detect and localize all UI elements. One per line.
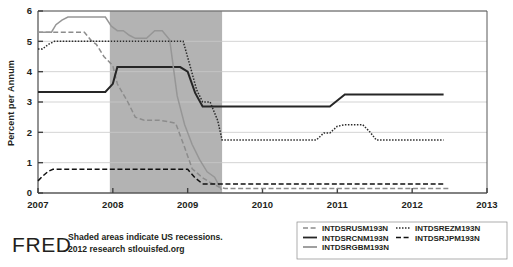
legend-label-INTDSRGBM193N: INTDSRGBM193N [322,243,389,252]
y-tick-label: 6 [27,5,32,16]
x-tick-label: 2013 [476,199,498,210]
recession-note-line1: Shaded areas indicate US recessions. [68,232,223,242]
x-tick-label: 2011 [327,199,349,210]
chart-legend: INTDSRUSM193NINTDSRCNM193NINTDSRGBM193NI… [297,222,507,259]
y-tick-label: 2 [27,127,32,138]
fred-chart-figure: 2007200820092010201120122013 0123456 Per… [0,0,513,267]
y-tick-label: 3 [27,96,32,107]
y-tick-label: 0 [27,187,32,198]
y-tick-label: 4 [27,66,33,77]
y-tick-label: 5 [27,36,33,47]
legend-label-INTDSRJPM193N: INTDSRJPM193N [415,234,480,243]
fred-logo: FRED [12,233,72,256]
legend-label-INTDSRCNM193N: INTDSRCNM193N [322,234,389,243]
x-tick-label: 2012 [401,199,423,210]
source-note-line2: 2012 research stlouisfed.org [68,244,185,254]
y-axis-title: Percent per Annum [6,60,16,146]
chart-canvas: 2007200820092010201120122013 0123456 Per… [0,0,513,267]
legend-label-INTDSREZM193N: INTDSREZM193N [415,224,480,233]
y-tick-label: 1 [27,157,33,168]
x-tick-label: 2009 [177,199,199,210]
x-tick-label: 2008 [102,199,124,210]
x-tick-label: 2010 [252,199,274,210]
x-tick-label: 2007 [27,199,49,210]
legend-label-INTDSRUSM193N: INTDSRUSM193N [322,224,388,233]
